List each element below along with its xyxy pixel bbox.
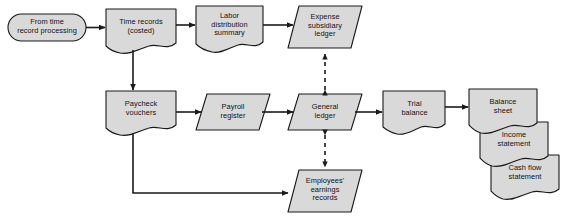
connector-paycheck-vouchers-to-employees-earnings: [133, 133, 288, 193]
node-time-records-costed: [106, 9, 176, 53]
node-labor-distribution-summary: [196, 6, 263, 52]
node-payroll-register: [196, 94, 270, 130]
node-balance-sheet: [469, 89, 537, 133]
node-trial-balance: [383, 91, 445, 134]
flowchart-canvas: From time record processing Time records…: [0, 0, 564, 222]
node-employees-earnings-records: [288, 170, 362, 212]
flowchart-graphics: [0, 0, 564, 222]
node-expense-subsidiary-ledger: [288, 6, 362, 48]
node-paycheck-vouchers: [106, 91, 176, 135]
node-from-time-record-processing: [8, 14, 86, 41]
node-general-ledger: [288, 94, 362, 130]
